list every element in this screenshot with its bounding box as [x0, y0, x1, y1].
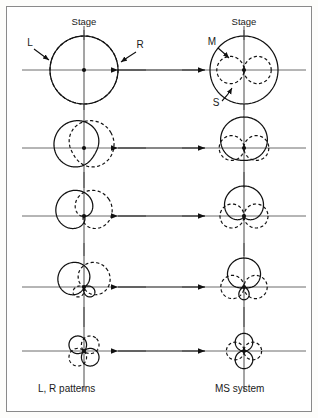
origin-marker — [242, 146, 246, 150]
origin-marker — [82, 146, 86, 150]
origin-marker — [242, 349, 246, 353]
polar-curve-r-wide-cardioid — [69, 121, 114, 167]
origin-marker — [82, 68, 86, 72]
polar-curve-l-cardioid — [56, 190, 93, 228]
caption-left: L, R patterns — [38, 383, 95, 394]
origin-marker — [82, 349, 86, 353]
callout-m-pointer — [218, 48, 229, 58]
polar-curve-r-hypercardioid — [73, 262, 110, 297]
callout-s-label: S — [213, 97, 220, 108]
callout-r-label: R — [136, 39, 143, 50]
origin-marker — [242, 214, 246, 218]
callout-m-label: M — [208, 36, 216, 47]
origin-marker — [242, 68, 246, 72]
stage-label-right: Stage — [232, 16, 257, 27]
callout-l-label: L — [27, 37, 33, 48]
polar-plot-left-row-5 — [22, 307, 146, 391]
diagram-canvas: Stage Stage L R M S L, R patterns MS sys… — [0, 0, 318, 418]
origin-marker — [82, 214, 86, 218]
callout-r-pointer — [121, 52, 136, 62]
stage-label-left: Stage — [72, 16, 97, 27]
polar-pattern-figure: Stage Stage L R M S L, R patterns MS sys… — [0, 0, 318, 418]
origin-marker — [242, 285, 246, 289]
callout-l-pointer — [34, 49, 49, 60]
polar-curve-l-hypercardioid — [58, 262, 95, 297]
origin-marker — [82, 285, 86, 289]
caption-right: MS system — [215, 383, 264, 394]
polar-curve-r-cardioid — [75, 190, 112, 228]
polar-plot-right-row-5 — [182, 307, 306, 391]
polar-curve-l-wide-cardioid — [54, 121, 99, 167]
